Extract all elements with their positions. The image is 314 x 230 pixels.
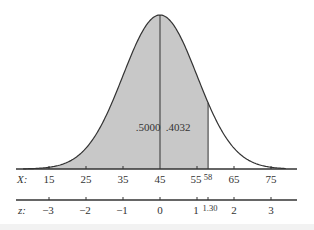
x-tick-label: 35 <box>118 173 130 185</box>
z-tick-label: −3 <box>42 204 54 216</box>
right-area-label: .4032 <box>166 121 191 133</box>
z-tick-label: 2 <box>231 204 237 216</box>
z-tick-label: 3 <box>268 204 274 216</box>
z-tick-label: −2 <box>79 204 91 216</box>
x-tick-label: 55 <box>191 173 203 185</box>
shaded-area <box>23 15 208 169</box>
x-marker-label: 58 <box>204 172 213 182</box>
x-tick-label: 45 <box>155 173 167 185</box>
normal-distribution-chart: X: 15 25 35 45 55 65 75 58 z: −3 −2 −1 0… <box>0 0 314 230</box>
x-tick-label: 65 <box>229 173 241 185</box>
z-tick-label: −1 <box>116 204 128 216</box>
z-tick-label: 0 <box>157 204 163 216</box>
z-tick-label: 1 <box>193 204 199 216</box>
x-tick-label: 75 <box>266 173 278 185</box>
bottom-band <box>0 224 314 230</box>
x-axis-name: X: <box>16 173 27 185</box>
z-marker-label: 1.30 <box>203 203 218 213</box>
x-tick-label: 25 <box>81 173 93 185</box>
z-axis-name: z: <box>17 204 26 216</box>
x-tick-label: 15 <box>44 173 56 185</box>
left-area-label: .5000 <box>136 121 161 133</box>
